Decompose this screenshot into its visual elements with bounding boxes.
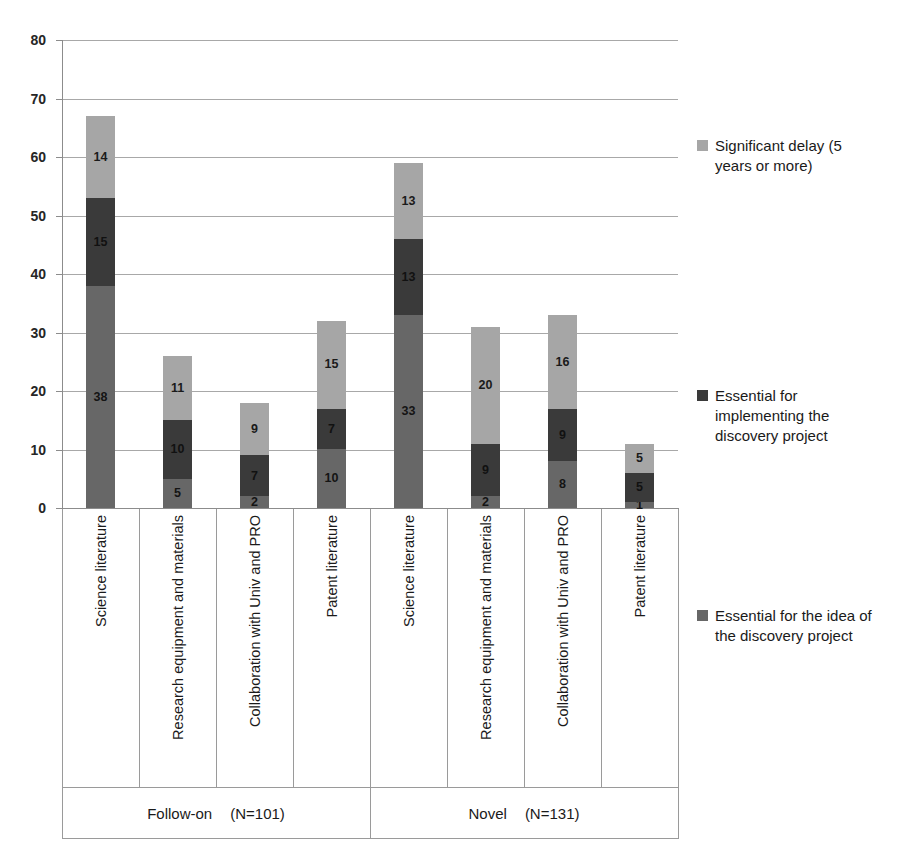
bar-value-label: 13 [402,271,416,284]
category-label: Collaboration with Univ and PRO [247,515,263,727]
category-cell: Patent literature [601,509,678,787]
group-name: Follow-on [147,805,212,822]
y-tick-label: 60 [12,150,46,164]
bar[interactable]: 2920 [471,327,500,508]
bar-value-label: 9 [482,464,489,477]
bar-segment[interactable]: 9 [548,409,577,462]
y-tick-label: 50 [12,209,46,223]
bar-value-label: 2 [482,496,489,509]
bar-segment[interactable]: 16 [548,315,577,409]
legend-label-line: Essential for [715,386,829,406]
legend-label-line: Essential for the idea of [715,606,872,626]
legend-swatch-icon [697,390,708,401]
bar-segment[interactable]: 14 [86,116,115,198]
bar-segment[interactable]: 33 [394,315,423,508]
legend-label: Essential forimplementing thediscovery p… [715,386,829,445]
bar-segment[interactable]: 1 [625,502,654,508]
legend-swatch-icon [697,140,708,151]
legend-label-line: years or more) [715,156,842,176]
bar-segment[interactable]: 13 [394,239,423,315]
bar-value-label: 9 [251,423,258,436]
bar-value-label: 5 [636,481,643,494]
y-tick-label: 40 [12,267,46,281]
legend-label-line: the discovery project [715,626,872,646]
bar-value-label: 7 [328,423,335,436]
bar[interactable]: 51011 [163,356,192,508]
group-label-band: Follow-on(N=101)Novel(N=131) [62,787,679,839]
bar-value-label: 16 [556,356,570,369]
category-label: Science literature [93,515,109,627]
group-separator [678,788,679,838]
bar-value-label: 7 [251,470,258,483]
bar-value-label: 11 [171,382,184,395]
group-sample-size: (N=131) [525,805,580,822]
category-cell: Research equipment and materials [447,509,524,787]
bar-value-label: 13 [402,195,416,208]
legend-label: Significant delay (5years or more) [715,136,842,176]
legend-label-line: discovery project [715,426,829,446]
group-sample-size: (N=101) [230,805,285,822]
category-label: Patent literature [324,515,340,617]
bar-segment[interactable]: 13 [394,163,423,239]
y-tick-label: 70 [12,92,46,106]
bar-segment[interactable]: 9 [471,444,500,497]
category-cell: Patent literature [293,509,370,787]
bar-segment[interactable]: 5 [625,444,654,473]
bar-value-label: 10 [171,443,185,456]
bar-segment[interactable]: 11 [163,356,192,420]
bar-value-label: 33 [402,405,416,418]
bar[interactable]: 381514 [86,116,115,508]
bar-value-label: 14 [94,151,108,164]
category-label: Research equipment and materials [478,515,494,740]
bar-value-label: 5 [636,452,643,465]
bar-segment[interactable]: 15 [86,198,115,286]
bar-segment[interactable]: 9 [240,403,269,456]
bar-value-label: 15 [325,358,339,371]
bar-value-label: 2 [251,496,258,509]
bar-segment[interactable]: 38 [86,286,115,508]
category-label: Collaboration with Univ and PRO [555,515,571,727]
bar-segment[interactable]: 2 [240,496,269,508]
bar-segment[interactable]: 5 [625,473,654,502]
category-label-band: Science literatureResearch equipment and… [62,509,679,787]
category-label: Patent literature [632,515,648,617]
bar-segment[interactable]: 7 [240,455,269,496]
legend-item[interactable]: Significant delay (5years or more) [697,136,897,176]
legend-item[interactable]: Essential forimplementing thediscovery p… [697,386,897,445]
legend-label-line: implementing the [715,406,829,426]
bar-value-label: 5 [174,487,181,500]
category-cell: Collaboration with Univ and PRO [524,509,601,787]
bar[interactable]: 10715 [317,321,346,508]
bar-segment[interactable]: 15 [317,321,346,409]
group-name: Novel [469,805,507,822]
category-label: Science literature [401,515,417,627]
bar-value-label: 15 [94,236,108,249]
bar-segment[interactable]: 8 [548,461,577,508]
bar-segment[interactable]: 2 [471,496,500,508]
category-cell: Research equipment and materials [139,509,216,787]
bar-segment[interactable]: 5 [163,479,192,508]
bar-segment[interactable]: 20 [471,327,500,444]
bar-value-label: 10 [325,472,339,485]
y-tick-label: 10 [12,443,46,457]
category-cell: Collaboration with Univ and PRO [216,509,293,787]
legend-item[interactable]: Essential for the idea ofthe discovery p… [697,606,897,646]
y-tick-label: 0 [12,501,46,515]
group-label: Follow-on(N=101) [62,788,370,838]
bar[interactable]: 331313 [394,163,423,508]
bar-value-label: 20 [479,379,493,392]
category-cell: Science literature [370,509,447,787]
bar[interactable]: 279 [240,403,269,508]
stacked-bar-chart: 80706050403020100 3815145101127910715331… [0,0,902,847]
legend-label: Essential for the idea ofthe discovery p… [715,606,872,646]
bar-segment[interactable]: 7 [317,409,346,450]
y-tick-label: 30 [12,326,46,340]
bar[interactable]: 8916 [548,315,577,508]
bar-segment[interactable]: 10 [317,449,346,508]
category-separator [678,509,679,787]
legend-swatch-icon [697,610,708,621]
bar[interactable]: 155 [625,444,654,508]
plot-area: 381514510112791071533131329208916155 [62,40,678,508]
legend-label-line: Significant delay (5 [715,136,842,156]
bar-segment[interactable]: 10 [163,420,192,479]
